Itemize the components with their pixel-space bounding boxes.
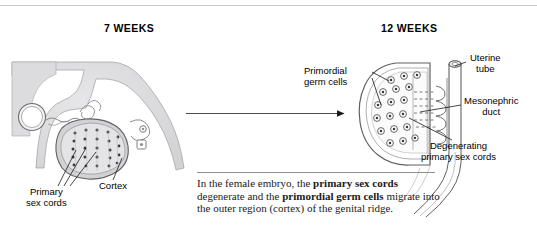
label-mesonephric-duct-line1: Mesonephric <box>464 95 518 106</box>
label-primordial-germ-cells-line2: germ cells <box>304 76 347 87</box>
label-primary-sex-cords: Primary sex cords <box>26 186 67 208</box>
label-degenerating-primary-sex-cords: Degenerating primary sex cords <box>421 140 496 162</box>
caption-segment-2: degenerate and the <box>197 190 282 202</box>
caption-divider <box>197 172 435 173</box>
caption-bold-primordial-germ-cells: primordial germ cells <box>282 190 383 202</box>
label-cortex-line1: Cortex <box>99 180 127 191</box>
label-degenerating-primary-sex-cords-line1: Degenerating <box>421 140 496 151</box>
embryo-section-7-weeks <box>12 62 184 186</box>
label-primordial-germ-cells-line1: Primordial <box>304 65 347 76</box>
label-mesonephric-duct-line2: duct <box>464 106 518 117</box>
label-primary-sex-cords-line2: sex cords <box>26 197 67 208</box>
caption-bold-primary-sex-cords: primary sex cords <box>313 177 398 189</box>
label-cortex: Cortex <box>99 180 127 191</box>
label-primary-sex-cords-line1: Primary <box>26 186 67 197</box>
label-degenerating-primary-sex-cords-line2: primary sex cords <box>421 151 496 162</box>
label-primordial-germ-cells: Primordial germ cells <box>304 65 347 87</box>
label-mesonephric-duct: Mesonephric duct <box>464 95 518 117</box>
label-uterine-tube-line1: Uterine <box>470 52 501 63</box>
caption-segment-1: In the female embryo, the <box>197 177 313 189</box>
label-uterine-tube-line2: tube <box>470 63 501 74</box>
label-uterine-tube: Uterine tube <box>470 52 501 74</box>
caption-text: In the female embryo, the primary sex co… <box>197 177 442 215</box>
figure-caption: In the female embryo, the primary sex co… <box>197 172 442 215</box>
embryology-figure: 7 WEEKS 12 WEEKS <box>0 0 537 247</box>
